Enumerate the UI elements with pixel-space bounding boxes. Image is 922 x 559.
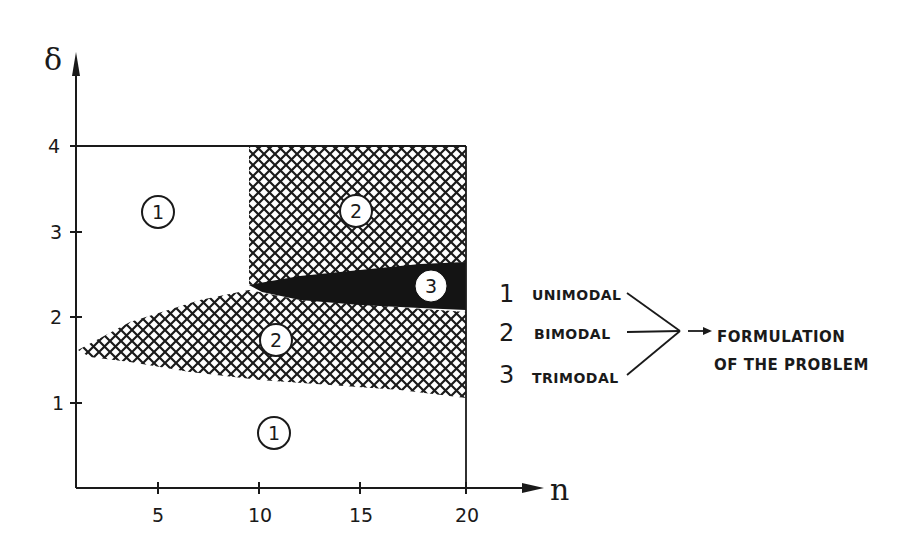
region-label-1-upper: 1: [142, 196, 174, 228]
x-tick-10: 10: [248, 504, 272, 526]
x-axis-arrow-icon: [522, 483, 544, 493]
legend-connector-lines: [627, 293, 706, 375]
region-label-2-upper: 2: [340, 195, 372, 227]
diagram-canvas: δ 1 2 3 4 n 5 10 15 20 1 2 3 2 1: [0, 0, 922, 559]
y-axis-arrow-icon: [72, 52, 80, 76]
svg-text:2: 2: [350, 200, 362, 222]
x-tick-5: 5: [152, 504, 164, 526]
region-label-1-bottom: 1: [258, 417, 290, 449]
y-tick-4: 4: [48, 135, 60, 157]
y-tick-1: 1: [52, 392, 64, 414]
y-tick-3: 3: [50, 221, 62, 243]
x-axis-label: n: [550, 472, 569, 507]
legend-num-3: 3: [499, 361, 514, 389]
legend-text-unimodal: UNIMODAL: [532, 287, 622, 303]
region-label-2-lower: 2: [260, 324, 292, 356]
y-tick-2: 2: [50, 306, 62, 328]
result-text-line2: OF THE PROBLEM: [714, 356, 869, 374]
legend-arrow-icon: [703, 327, 712, 335]
result-text-line1: FORMULATION: [717, 328, 845, 346]
svg-text:1: 1: [268, 422, 280, 444]
legend-num-1: 1: [499, 280, 514, 308]
legend: 1 UNIMODAL 2 BIMODAL 3 TRIMODAL FORMULAT…: [499, 280, 869, 389]
svg-text:2: 2: [270, 329, 282, 351]
svg-text:1: 1: [152, 201, 164, 223]
x-tick-20: 20: [455, 504, 479, 526]
y-axis-label: δ: [44, 42, 62, 77]
legend-num-2: 2: [499, 319, 514, 347]
legend-text-bimodal: BIMODAL: [534, 326, 611, 342]
legend-text-trimodal: TRIMODAL: [532, 370, 619, 386]
region-label-3-wedge: 3: [416, 271, 446, 301]
x-tick-15: 15: [349, 504, 373, 526]
svg-text:3: 3: [425, 275, 437, 297]
